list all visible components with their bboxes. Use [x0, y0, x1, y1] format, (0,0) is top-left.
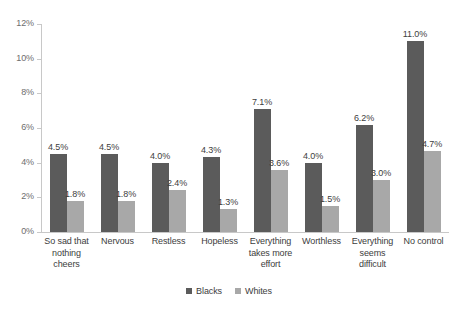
bar-value-label: 4.3% [201, 145, 221, 155]
bar-group: 4.3%1.3% [194, 24, 245, 232]
category-axis-labels: So sad that nothing cheersNervousRestles… [41, 236, 449, 280]
bar-value-label: 4.7% [422, 139, 442, 149]
bar-blacks [254, 109, 271, 232]
bar-blacks [305, 163, 322, 232]
y-axis-tick-label: 8% [21, 87, 34, 97]
bar-value-label: 7.1% [252, 97, 272, 107]
category-label: Worthless [296, 236, 347, 248]
category-label: So sad that nothing cheers [41, 236, 92, 271]
bar-value-label: 2.4% [167, 178, 187, 188]
y-axis-tick-label: 12% [16, 18, 34, 28]
legend-label: Whites [245, 286, 272, 296]
bar-value-label: 3.0% [371, 168, 391, 178]
category-label: Everything seems difficult [347, 236, 398, 271]
bar-chart: 0%2%4%6%8%10%12% 4.5%1.8%4.5%1.8%4.0%2.4… [0, 0, 458, 309]
legend-item[interactable]: Blacks [186, 286, 222, 296]
bar-blacks [152, 163, 169, 232]
bar-group: 6.2%3.0% [347, 24, 398, 232]
bar-group: 4.0%2.4% [143, 24, 194, 232]
legend-swatch-icon [186, 288, 192, 294]
y-axis-tick-label: 0% [21, 226, 34, 236]
category-label: Hopeless [194, 236, 245, 248]
legend-swatch-icon [235, 288, 241, 294]
bar-whites [322, 206, 339, 232]
bar-whites [424, 151, 441, 232]
bar-value-label: 1.8% [65, 189, 85, 199]
bar-value-label: 3.6% [269, 158, 289, 168]
bar-blacks [356, 125, 373, 232]
category-label: Restless [143, 236, 194, 248]
y-axis-ticks: 0%2%4%6%8%10%12% [0, 24, 41, 232]
bar-value-label: 11.0% [403, 29, 427, 39]
y-axis-tick-label: 10% [16, 53, 34, 63]
bar-value-label: 4.0% [303, 151, 323, 161]
legend-label: Blacks [196, 286, 222, 296]
category-label: Nervous [92, 236, 143, 248]
bar-group: 4.5%1.8% [41, 24, 92, 232]
bar-whites [169, 190, 186, 232]
chart-legend: BlacksWhites [0, 286, 458, 296]
x-axis-line [41, 232, 449, 233]
bar-blacks [50, 154, 67, 232]
bar-blacks [101, 154, 118, 232]
y-axis-tick-label: 4% [21, 157, 34, 167]
bar-whites [118, 201, 135, 232]
plot-area: 4.5%1.8%4.5%1.8%4.0%2.4%4.3%1.3%7.1%3.6%… [41, 24, 449, 232]
legend-item[interactable]: Whites [235, 286, 272, 296]
category-label: Everything takes more effort [245, 236, 296, 271]
bar-whites [67, 201, 84, 232]
y-axis-tick-label: 2% [21, 191, 34, 201]
bar-whites [373, 180, 390, 232]
bar-value-label: 4.0% [150, 151, 170, 161]
bar-value-label: 4.5% [99, 142, 119, 152]
bar-value-label: 1.8% [116, 189, 136, 199]
category-label: No control [398, 236, 449, 248]
bar-group: 7.1%3.6% [245, 24, 296, 232]
bar-group: 4.0%1.5% [296, 24, 347, 232]
bar-group: 11.0%4.7% [398, 24, 449, 232]
bar-value-label: 1.5% [320, 194, 340, 204]
bar-whites [220, 209, 237, 232]
bar-value-label: 1.3% [218, 197, 238, 207]
bar-value-label: 4.5% [48, 142, 68, 152]
bar-value-label: 6.2% [354, 113, 374, 123]
bar-blacks [407, 41, 424, 232]
bar-blacks [203, 157, 220, 232]
bar-whites [271, 170, 288, 232]
bar-group: 4.5%1.8% [92, 24, 143, 232]
y-axis-tick-label: 6% [21, 122, 34, 132]
